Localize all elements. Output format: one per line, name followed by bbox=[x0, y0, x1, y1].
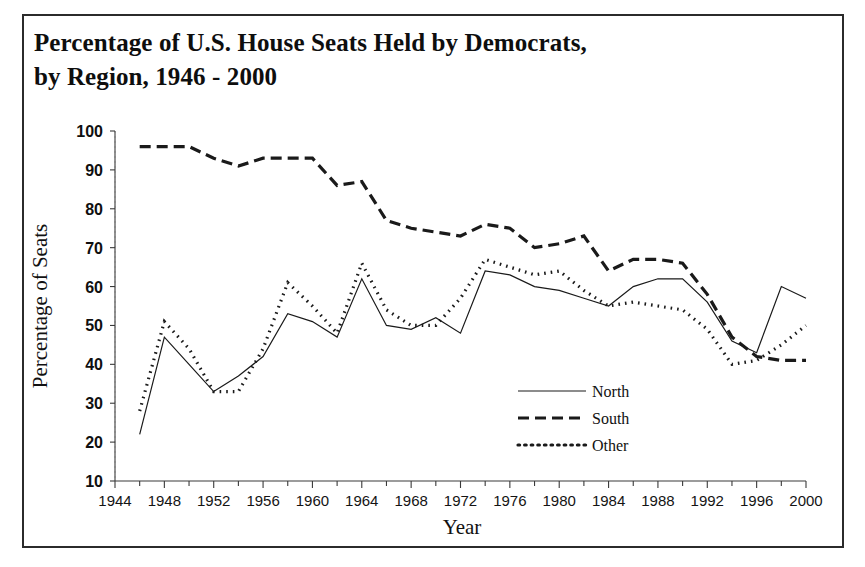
x-axis-tick-label: 1996 bbox=[740, 492, 773, 509]
x-axis-tick-label: 1964 bbox=[345, 492, 378, 509]
x-axis-tick-label: 1944 bbox=[98, 492, 131, 509]
y-axis-tick-label: 10 bbox=[85, 473, 103, 490]
x-axis-tick-label: 1988 bbox=[641, 492, 674, 509]
x-axis-tick-label: 1976 bbox=[493, 492, 526, 509]
y-axis-tick-label: 20 bbox=[85, 434, 103, 451]
chart-legend: NorthSouthOther bbox=[518, 383, 629, 454]
y-axis-tick-label: 60 bbox=[85, 279, 103, 296]
x-axis-tick-label: 1992 bbox=[691, 492, 724, 509]
x-axis-tick-label: 1956 bbox=[246, 492, 279, 509]
y-axis-tick-label: 90 bbox=[85, 162, 103, 179]
x-axis-tick-label: 1968 bbox=[394, 492, 427, 509]
x-axis-tick-label: 1984 bbox=[592, 492, 625, 509]
y-axis-title: Percentage of Seats bbox=[28, 224, 52, 388]
legend-label-south: South bbox=[592, 410, 629, 427]
y-axis-tick-label: 40 bbox=[85, 356, 103, 373]
plot-area: 102030405060708090100 194419481952195619… bbox=[0, 0, 865, 567]
legend-label-north: North bbox=[592, 383, 629, 400]
series-line-north bbox=[140, 271, 806, 434]
x-axis-tick-label: 1960 bbox=[296, 492, 329, 509]
series-line-other bbox=[140, 259, 806, 411]
y-axis-tick-label: 70 bbox=[85, 240, 103, 257]
x-axis-title: Year bbox=[443, 515, 482, 539]
series-line-south bbox=[140, 147, 806, 361]
y-axis-tick-labels: 102030405060708090100 bbox=[76, 123, 103, 490]
axes-group bbox=[110, 131, 806, 488]
legend-label-other: Other bbox=[592, 437, 629, 454]
x-axis-tick-labels: 1944194819521956196019641968197219761980… bbox=[98, 492, 822, 509]
x-axis-tick-label: 1980 bbox=[543, 492, 576, 509]
y-axis-tick-label: 100 bbox=[76, 123, 103, 140]
x-axis-tick-label: 1948 bbox=[148, 492, 181, 509]
y-axis-tick-label: 50 bbox=[85, 317, 103, 334]
x-axis-tick-label: 1972 bbox=[444, 492, 477, 509]
x-axis-tick-label: 1952 bbox=[197, 492, 230, 509]
figure-container: Percentage of U.S. House Seats Held by D… bbox=[0, 0, 865, 567]
y-axis-tick-label: 80 bbox=[85, 201, 103, 218]
line-chart: 102030405060708090100 194419481952195619… bbox=[0, 0, 865, 567]
data-series-group bbox=[140, 147, 806, 435]
x-axis-tick-label: 2000 bbox=[789, 492, 822, 509]
y-axis-tick-label: 30 bbox=[85, 395, 103, 412]
